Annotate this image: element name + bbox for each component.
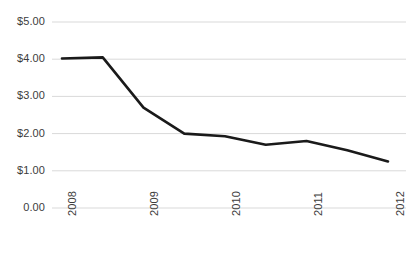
y-axis-tick-label: $1.00 xyxy=(0,164,45,176)
x-axis-tick-label: 2011 xyxy=(312,192,324,216)
x-axis-tick-label: 2012 xyxy=(394,191,406,216)
data-series-line xyxy=(62,57,388,161)
line-chart: $5.00$4.00$3.00$2.00$1.000.00 2008200920… xyxy=(0,0,410,271)
y-axis-tick-label: 0.00 xyxy=(0,201,45,213)
y-axis-tick-label: $4.00 xyxy=(0,52,45,64)
gridlines-group xyxy=(52,22,406,208)
x-axis-tick-label: 2009 xyxy=(148,191,160,216)
y-axis-tick-label: $5.00 xyxy=(0,15,45,27)
chart-plot-area xyxy=(0,0,410,271)
y-axis-tick-label: $3.00 xyxy=(0,89,45,101)
x-axis-tick-label: 2010 xyxy=(230,191,242,216)
y-axis-tick-label: $2.00 xyxy=(0,127,45,139)
x-axis-tick-label: 2008 xyxy=(66,191,78,216)
